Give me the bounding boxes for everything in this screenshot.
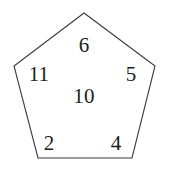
- number-label-right: 5: [126, 64, 137, 85]
- pentagon-diagram: 6 11 5 10 2 4: [0, 0, 169, 172]
- number-label-left: 11: [29, 64, 50, 85]
- number-label-center: 10: [73, 86, 94, 107]
- number-label-bottom-left: 2: [44, 133, 55, 154]
- number-label-bottom-right: 4: [111, 133, 122, 154]
- number-label-top: 6: [79, 35, 90, 56]
